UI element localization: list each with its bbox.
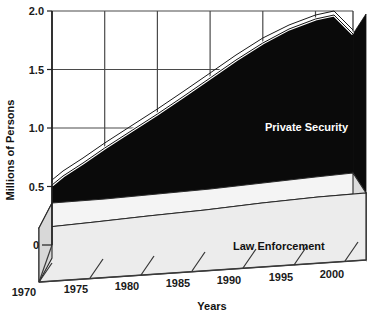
x-label-2000: 2000: [320, 268, 344, 280]
x-label-1995: 1995: [269, 271, 293, 283]
x-label-1985: 1985: [166, 277, 190, 289]
x-label-1970: 1970: [12, 286, 36, 298]
x-label-1990: 1990: [217, 274, 241, 286]
chart-container: 2.0 1.5 1.0 0.5 0 1970 1975 1980 1985 19…: [0, 0, 383, 314]
y-label-0: 0: [33, 239, 39, 251]
y-label-0.5: 0.5: [29, 181, 44, 193]
x-label-1980: 1980: [115, 280, 139, 292]
series-annotation-law-enforcement: Law Enforcement: [233, 240, 325, 252]
x-label-1975: 1975: [64, 283, 88, 295]
area-chart-svg: 2.0 1.5 1.0 0.5 0 1970 1975 1980 1985 19…: [0, 0, 383, 314]
y-axis-title: Millions of Persons: [4, 100, 16, 201]
x-axis-title: Years: [197, 300, 226, 312]
y-label-2.0: 2.0: [29, 5, 44, 17]
y-label-1.0: 1.0: [29, 122, 44, 134]
series-annotation-private-security: Private Security: [265, 121, 349, 133]
y-label-1.5: 1.5: [29, 64, 44, 76]
